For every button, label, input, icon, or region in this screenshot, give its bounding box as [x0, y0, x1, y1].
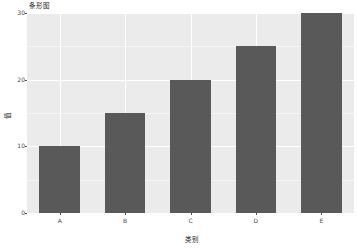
bar-E [301, 13, 342, 213]
bar-C [170, 80, 211, 213]
bar-chart-figure: 条形图 值 0102030 ABCDE 类别 [0, 0, 357, 251]
bar-B [105, 113, 146, 213]
x-tick-mark [321, 213, 322, 215]
plot-panel [27, 13, 354, 213]
x-axis-label: 类别 [29, 234, 354, 244]
x-tick-label: C [188, 217, 192, 224]
x-tick-label: E [319, 217, 323, 224]
x-tick-mark [256, 213, 257, 215]
x-tick-mark [60, 213, 61, 215]
y-tick-label: 10 [1, 142, 25, 149]
bar-A [39, 146, 80, 213]
y-tick-mark [25, 13, 27, 14]
x-tick-mark [125, 213, 126, 215]
y-axis-ticks: 0102030 [0, 13, 25, 213]
chart-title: 条形图 [29, 2, 51, 11]
x-tick-label: B [123, 217, 127, 224]
x-tick-label: A [58, 217, 62, 224]
y-tick-label: 0 [1, 209, 25, 216]
bar-D [236, 46, 277, 213]
y-tick-mark [25, 146, 27, 147]
y-tick-label: 30 [1, 9, 25, 16]
y-tick-label: 20 [1, 76, 25, 83]
x-tick-label: D [254, 217, 259, 224]
x-axis-ticks: ABCDE [27, 213, 354, 231]
y-tick-mark [25, 80, 27, 81]
bars-layer [27, 13, 354, 213]
x-tick-mark [191, 213, 192, 215]
